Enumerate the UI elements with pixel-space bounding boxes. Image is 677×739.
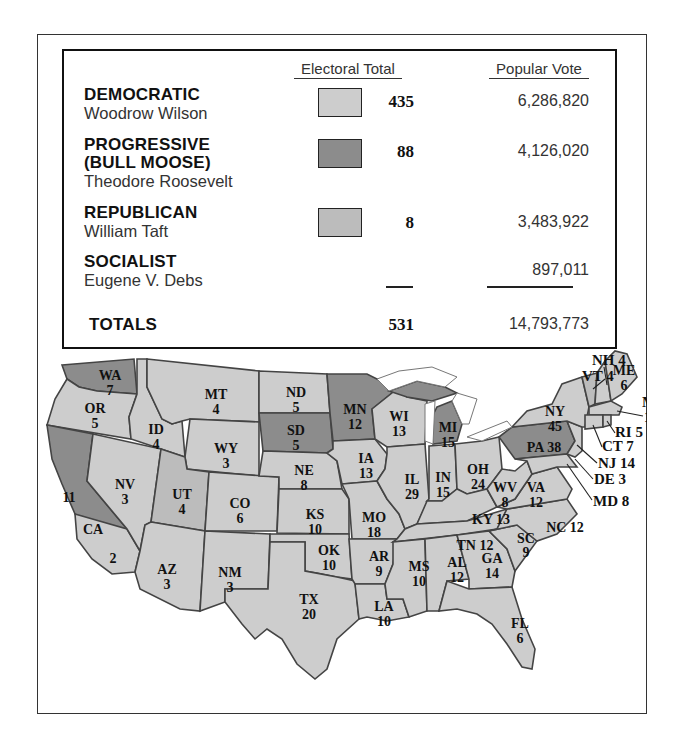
label-al: AL [447, 555, 466, 570]
swatch-republican [318, 208, 362, 237]
label-sd: SD [287, 423, 305, 438]
label-ut-votes: 4 [179, 502, 186, 517]
label-in-votes: 15 [436, 485, 450, 500]
label-or-votes: 5 [92, 416, 99, 431]
leader-nj [577, 445, 597, 463]
label-la-votes: 10 [377, 614, 391, 629]
legend-table: Electoral Total Popular Vote DEMOCRATIC … [62, 49, 617, 349]
label-wv-votes: 8 [502, 495, 509, 510]
party-name-line2: (BULL MOOSE) [84, 154, 233, 172]
totals-label: TOTALS [89, 315, 157, 335]
label-ok: OK [318, 543, 340, 558]
label-mn-votes: 12 [348, 417, 362, 432]
popular-republican: 3,483,922 [474, 213, 589, 231]
popular-total: 14,793,773 [474, 315, 589, 333]
label-vt: VT 4 [582, 368, 614, 384]
party-republican: REPUBLICAN William Taft [84, 204, 197, 240]
label-nc: NC 12 [546, 520, 584, 535]
swatch-democratic [318, 88, 362, 117]
label-il: IL [405, 472, 420, 487]
label-wi: WI [389, 409, 408, 424]
label-in: IN [435, 470, 451, 485]
swatch-progressive [318, 139, 362, 168]
label-mi-votes: 15 [441, 435, 455, 450]
label-ms: MS [409, 559, 430, 574]
label-co-votes: 6 [237, 511, 244, 526]
label-az-votes: 3 [164, 577, 171, 592]
label-id: ID [148, 422, 164, 437]
candidate-name: Woodrow Wilson [84, 104, 207, 122]
label-ga: GA [482, 551, 504, 566]
label-wi-votes: 13 [392, 424, 406, 439]
label-wy-votes: 3 [223, 456, 230, 471]
label-ca-votes-dem: 2 [110, 551, 117, 566]
sum-rule-electoral [386, 286, 413, 288]
party-democratic: DEMOCRATIC Woodrow Wilson [84, 86, 207, 122]
popular-democratic: 6,286,820 [474, 92, 589, 110]
label-oh-votes: 24 [471, 477, 485, 492]
party-name: REPUBLICAN [84, 204, 197, 222]
label-tx: TX [299, 592, 318, 607]
label-ny: NY [545, 404, 565, 419]
us-electoral-map: WA 7 OR 5 11 CA 2 ID 4 NV 3 MT 4 WY 3 UT… [37, 349, 647, 709]
state-mt [147, 359, 259, 424]
label-la: LA [374, 599, 394, 614]
label-nd: ND [286, 385, 306, 400]
label-az: AZ [157, 562, 176, 577]
label-wa: WA [99, 368, 122, 383]
label-tx-votes: 20 [302, 607, 316, 622]
label-ca: CA [83, 522, 104, 537]
candidate-name: Theodore Roosevelt [84, 172, 233, 190]
label-sc: SC [517, 531, 535, 546]
label-fl: FL [511, 616, 529, 631]
label-md: MD 8 [593, 493, 629, 509]
label-ma-votes: 18 [644, 409, 647, 425]
label-mi: MI [439, 420, 458, 435]
label-ut: UT [172, 487, 192, 502]
label-ks: KS [306, 507, 325, 522]
label-ar-votes: 9 [376, 564, 383, 579]
candidate-name: William Taft [84, 222, 197, 240]
label-va: VA [527, 480, 546, 495]
header-electoral-total: Electoral Total [294, 60, 402, 79]
header-popular-vote: Popular Vote [489, 60, 589, 79]
label-ca-votes-prog: 11 [62, 490, 75, 505]
label-nm: NM [218, 565, 241, 580]
popular-progressive: 4,126,020 [474, 142, 589, 160]
label-oh: OH [467, 462, 489, 477]
popular-socialist: 897,011 [474, 261, 589, 279]
label-ga-votes: 14 [485, 566, 499, 581]
label-ok-votes: 10 [322, 558, 336, 573]
label-id-votes: 4 [153, 437, 160, 452]
label-ia: IA [358, 451, 374, 466]
label-ms-votes: 10 [412, 574, 426, 589]
label-va-votes: 12 [529, 495, 543, 510]
label-mo: MO [362, 510, 386, 525]
lake-michigan [425, 401, 435, 444]
label-ct: CT 7 [602, 438, 634, 454]
sum-rule-popular [487, 286, 573, 288]
label-sc-votes: 9 [523, 545, 530, 560]
label-nh: NH 4 [592, 352, 626, 368]
candidate-name: Eugene V. Debs [84, 271, 203, 289]
label-nj: NJ 14 [598, 455, 636, 471]
label-me-votes: 6 [621, 378, 628, 393]
label-ar: AR [369, 549, 390, 564]
leader-ma [617, 411, 643, 416]
label-ky: KY 13 [472, 512, 510, 527]
label-de: DE 3 [594, 471, 626, 487]
label-mt-votes: 4 [213, 402, 220, 417]
leader-md [567, 464, 592, 500]
label-wv: WV [493, 480, 517, 495]
electoral-republican: 8 [370, 213, 414, 233]
label-nv: NV [115, 477, 135, 492]
label-il-votes: 29 [405, 487, 419, 502]
label-pa: PA 38 [527, 440, 561, 455]
label-mn: MN [343, 402, 366, 417]
party-name: DEMOCRATIC [84, 86, 207, 104]
leader-de [575, 459, 593, 479]
label-ma: MA [642, 394, 647, 410]
label-ia-votes: 13 [359, 466, 373, 481]
electoral-total: 531 [370, 315, 414, 335]
party-socialist: SOCIALIST Eugene V. Debs [84, 253, 203, 289]
